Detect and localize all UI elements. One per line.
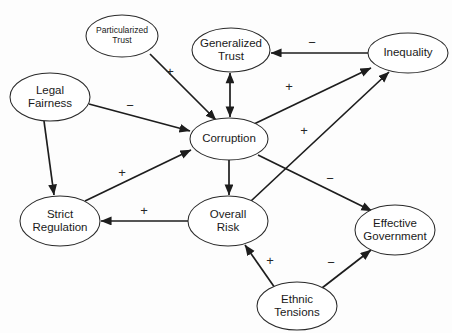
edge-corruption-to-effective-government [258, 155, 372, 211]
node-label-ethnic-tensions-line2: Tensions [274, 306, 320, 318]
node-corruption[interactable]: Corruption [190, 118, 268, 160]
node-legal-fairness[interactable]: LegalFairness [10, 73, 90, 121]
node-label-overall-risk: Overall [210, 208, 246, 220]
node-overall-risk[interactable]: OverallRisk [188, 196, 268, 246]
node-effective-government[interactable]: EffectiveGovernment [355, 205, 435, 255]
node-particularized-trust[interactable]: ParticularizedTrust [86, 15, 158, 57]
edge-sign-corruption-to-inequality: + [285, 79, 293, 94]
causal-path-diagram: ParticularizedTrustGeneralizedTrustInequ… [0, 0, 452, 333]
node-generalized-trust[interactable]: GeneralizedTrust [192, 28, 270, 72]
node-label-legal-fairness: Legal [36, 84, 64, 96]
edge-strict-regulation-to-corruption [85, 150, 191, 201]
node-label-inequality: Inequality [383, 46, 432, 58]
node-label-particularized-trust-line2: Trust [112, 35, 132, 45]
edge-sign-overall-risk-to-inequality: + [300, 123, 308, 138]
node-label-effective-government: Effective [373, 217, 417, 229]
edge-overall-risk-to-inequality [251, 72, 389, 201]
node-label-generalized-trust-line2: Trust [218, 50, 245, 62]
node-label-strict-regulation: Strict [47, 208, 74, 220]
edge-sign-overall-risk-to-strict-regulation: + [140, 203, 148, 218]
node-label-overall-risk-line2: Risk [217, 221, 240, 233]
edge-sign-ethnic-tensions-to-overall-risk: + [266, 253, 274, 268]
node-label-generalized-trust: Generalized [200, 37, 262, 49]
node-label-legal-fairness-line2: Fairness [28, 97, 72, 109]
node-label-effective-government-line2: Government [363, 230, 427, 242]
edge-sign-particularized-trust-to-corruption: + [166, 64, 174, 79]
node-label-particularized-trust: Particularized [96, 25, 148, 35]
node-ethnic-tensions[interactable]: EthnicTensions [257, 282, 337, 330]
edge-sign-corruption-to-effective-government: − [326, 171, 334, 186]
node-label-corruption: Corruption [202, 132, 256, 144]
node-inequality[interactable]: Inequality [368, 33, 448, 73]
node-label-ethnic-tensions: Ethnic [281, 293, 313, 305]
edge-sign-inequality-to-generalized-trust: − [308, 35, 316, 50]
edge-legal-fairness-to-corruption [89, 104, 190, 131]
edges-layer [44, 53, 389, 288]
edge-corruption-to-inequality [254, 68, 371, 124]
node-strict-regulation[interactable]: StrictRegulation [20, 196, 100, 246]
edge-sign-strict-regulation-to-corruption: + [118, 165, 126, 180]
edge-legal-fairness-to-strict-regulation [44, 121, 54, 195]
diagram-canvas: ParticularizedTrustGeneralizedTrustInequ… [0, 0, 452, 333]
edge-sign-legal-fairness-to-corruption: − [126, 98, 134, 113]
edge-sign-ethnic-tensions-to-effective-government: − [327, 255, 335, 270]
node-label-strict-regulation-line2: Regulation [33, 221, 88, 233]
